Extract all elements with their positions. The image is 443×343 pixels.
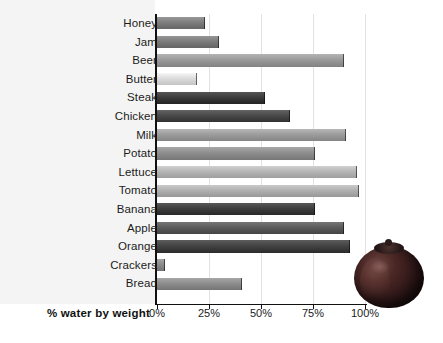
category-label-beer: Beer (132, 51, 157, 70)
bar-crackers (157, 259, 165, 271)
category-label-bread: Bread (126, 274, 157, 293)
category-label-crackers: Crackers (110, 256, 157, 275)
category-label-potato: Potato (123, 144, 157, 163)
bar-row: Chicken (0, 107, 443, 126)
category-label-orange: Orange (118, 237, 157, 256)
x-tick-label: 25% (189, 307, 229, 319)
bar-row: Butter (0, 70, 443, 89)
bar-row: Apple (0, 219, 443, 238)
bar-apple (157, 222, 344, 234)
tomato-highlight (370, 260, 390, 274)
category-label-apple: Apple (127, 219, 157, 238)
x-tick-label: 50% (241, 307, 281, 319)
bar-row: Beer (0, 51, 443, 70)
bar-tomato (157, 185, 359, 197)
category-label-butter: Butter (126, 70, 157, 89)
bar-row: Banana (0, 200, 443, 219)
x-tick-label: 75% (293, 307, 333, 319)
category-label-steak: Steak (127, 88, 157, 107)
bar-row: Tomato (0, 181, 443, 200)
category-label-honey: Honey (123, 14, 157, 33)
bar-banana (157, 203, 315, 215)
category-label-tomato: Tomato (119, 181, 157, 200)
bar-potato (157, 147, 315, 159)
bar-milk (157, 129, 346, 141)
category-label-banana: Banana (117, 200, 157, 219)
bar-bread (157, 278, 242, 290)
bar-chicken (157, 110, 290, 122)
bar-row: Lettuce (0, 163, 443, 182)
category-label-jam: Jam (135, 33, 157, 52)
x-axis-title: % water by weight (18, 307, 150, 319)
tomato-body (354, 246, 424, 308)
tomato-stem (374, 242, 404, 254)
bar-lettuce (157, 166, 357, 178)
category-label-milk: Milk (136, 126, 157, 145)
bar-row: Milk (0, 126, 443, 145)
bar-jam (157, 36, 219, 48)
bar-row: Steak (0, 88, 443, 107)
category-label-chicken: Chicken (115, 107, 157, 126)
bar-beer (157, 54, 344, 66)
bar-row: Jam (0, 33, 443, 52)
bar-row: Honey (0, 14, 443, 33)
bar-orange (157, 240, 350, 252)
bar-butter (157, 73, 197, 85)
category-label-lettuce: Lettuce (119, 163, 157, 182)
bar-row: Potato (0, 144, 443, 163)
bar-chart: HoneyJamBeerButterSteakChickenMilkPotato… (0, 0, 443, 343)
tomato-photograph (352, 240, 426, 310)
bar-steak (157, 92, 265, 104)
bar-honey (157, 17, 205, 29)
